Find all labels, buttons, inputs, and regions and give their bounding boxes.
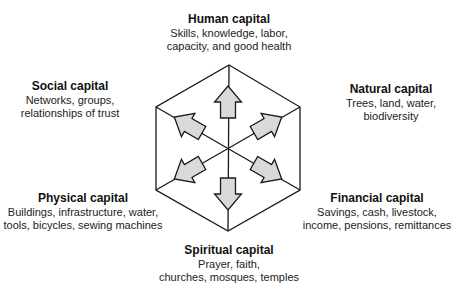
natural-capital-label: Natural capital Trees, land, water, biod… [346,82,436,123]
spiritual-capital-desc-2: churches, mosques, temples [159,271,299,284]
spiritual-capital-title: Spiritual capital [159,243,299,258]
financial-capital-desc-2: income, pensions, remittances [303,219,452,232]
natural-capital-title: Natural capital [346,82,436,97]
financial-capital-title: Financial capital [303,191,452,206]
spiritual-arrow-icon [215,178,242,210]
natural-capital-desc-2: biodiversity [346,110,436,123]
human-capital-label: Human capital Skills, knowledge, labor, … [167,12,292,53]
physical-capital-desc-2: tools, bicycles, sewing machines [4,219,163,232]
financial-arrow-icon [247,151,288,190]
physical-capital-label: Physical capital Buildings, infrastructu… [4,191,163,232]
spiritual-capital-desc-1: Prayer, faith, [159,258,299,271]
social-capital-desc-2: relationships of trust [21,107,119,120]
social-capital-title: Social capital [21,79,119,94]
physical-arrow-icon [168,151,209,190]
financial-capital-label: Financial capital Savings, cash, livesto… [303,191,452,232]
human-arrow-icon [215,86,242,118]
physical-capital-title: Physical capital [4,191,163,206]
natural-capital-desc-1: Trees, land, water, [346,97,436,110]
social-capital-desc-1: Networks, groups, [21,94,119,107]
social-capital-label: Social capital Networks, groups, relatio… [21,79,119,120]
physical-capital-desc-1: Buildings, infrastructure, water, [4,206,163,219]
spiritual-capital-label: Spiritual capital Prayer, faith, churche… [159,243,299,284]
human-capital-title: Human capital [167,12,292,27]
natural-arrow-icon [247,105,288,144]
financial-capital-desc-1: Savings, cash, livestock, [303,206,452,219]
human-capital-desc-1: Skills, knowledge, labor, [167,27,292,40]
social-arrow-icon [168,105,209,144]
human-capital-desc-2: capacity, and good health [167,40,292,53]
